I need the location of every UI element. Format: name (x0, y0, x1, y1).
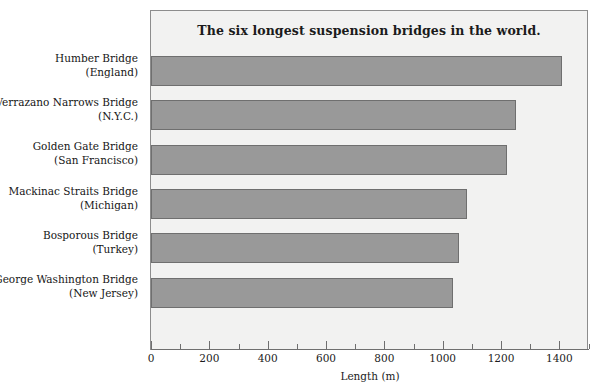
x-tick-major (268, 341, 269, 349)
x-axis-line (151, 349, 589, 350)
chart-title: The six longest suspension bridges in th… (151, 23, 587, 38)
category-label: Humber Bridge (England) (55, 52, 138, 79)
category-label-sub: (San Francisco) (33, 154, 138, 168)
category-label-name: Golden Gate Bridge (33, 140, 138, 152)
x-tick-label: 800 (374, 352, 394, 364)
x-tick-minor (239, 344, 240, 349)
bar-slot (151, 271, 589, 315)
category-label-sub: (Turkey) (43, 243, 138, 257)
category-label: Bosporous Bridge (Turkey) (43, 229, 138, 256)
x-tick-major (559, 341, 560, 349)
x-tick-major (501, 341, 502, 349)
x-axis-title: Length (m) (151, 370, 589, 382)
category-label: Verrazano Narrows Bridge (N.Y.C.) (0, 96, 138, 123)
bar-slot (151, 93, 589, 137)
category-label-name: Mackinac Straits Bridge (8, 185, 138, 197)
bar (151, 100, 516, 130)
chart-figure: The six longest suspension bridges in th… (150, 10, 588, 350)
bar-slot (151, 182, 589, 226)
bar (151, 56, 562, 86)
x-tick-minor (472, 344, 473, 349)
x-tick-label: 200 (199, 352, 219, 364)
x-tick-label: 400 (258, 352, 278, 364)
x-tick-label: 600 (316, 352, 336, 364)
category-label-sub: (N.Y.C.) (0, 110, 138, 124)
x-tick-major (443, 341, 444, 349)
category-label-name: Verrazano Narrows Bridge (0, 96, 138, 108)
category-label-name: Humber Bridge (55, 52, 138, 64)
bar (151, 278, 453, 308)
category-label: Golden Gate Bridge (San Francisco) (33, 140, 138, 167)
x-tick-major (384, 341, 385, 349)
x-tick-label: 1200 (488, 352, 515, 364)
plot-area: 0200400600800100012001400 Length (m) (151, 47, 589, 313)
category-label-column: Humber Bridge (England) Verrazano Narrow… (0, 46, 146, 312)
x-tick-label: 1400 (546, 352, 573, 364)
x-tick-minor (355, 344, 356, 349)
category-label: George Washington Bridge (New Jersey) (0, 273, 138, 300)
category-label: Mackinac Straits Bridge (Michigan) (8, 185, 138, 212)
category-label-name: George Washington Bridge (0, 273, 138, 285)
x-tick-minor (589, 344, 590, 349)
x-tick-label: 0 (148, 352, 155, 364)
x-tick-minor (180, 344, 181, 349)
x-tick-minor (414, 344, 415, 349)
bar-slot (151, 138, 589, 182)
bar (151, 233, 459, 263)
x-tick-minor (530, 344, 531, 349)
x-tick-label: 1000 (429, 352, 456, 364)
bar (151, 145, 507, 175)
category-label-sub: (New Jersey) (0, 287, 138, 301)
x-tick-major (326, 341, 327, 349)
x-tick-major (151, 341, 152, 349)
bar-series (151, 47, 589, 313)
bar (151, 189, 467, 219)
category-label-sub: (Michigan) (8, 199, 138, 213)
x-tick-minor (297, 344, 298, 349)
bar-slot (151, 226, 589, 270)
category-label-name: Bosporous Bridge (43, 229, 138, 241)
category-label-sub: (England) (55, 66, 138, 80)
bar-slot (151, 49, 589, 93)
x-tick-major (209, 341, 210, 349)
